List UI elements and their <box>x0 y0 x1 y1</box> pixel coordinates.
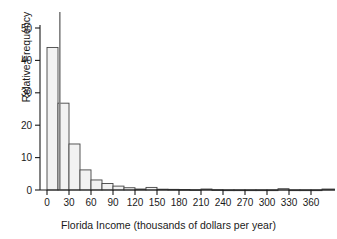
x-tick-label: 210 <box>193 197 210 208</box>
x-tick-label: 0 <box>44 197 50 208</box>
y-tick-label: 10 <box>21 152 33 163</box>
histogram-bar <box>80 170 91 190</box>
x-tick-label: 180 <box>171 197 188 208</box>
histogram-bar <box>47 47 58 190</box>
x-ticks-group: 0306090120150180210240270300330360 <box>44 190 320 208</box>
x-tick-label: 300 <box>259 197 276 208</box>
bars-group <box>47 47 334 190</box>
plot-area: 0102030405003060901201501802102402703003… <box>0 0 337 239</box>
x-tick-label: 360 <box>303 197 320 208</box>
x-tick-label: 30 <box>63 197 75 208</box>
histogram-bar <box>102 184 113 190</box>
histogram-bar <box>69 144 80 190</box>
x-tick-label: 330 <box>281 197 298 208</box>
x-tick-label: 150 <box>149 197 166 208</box>
histogram-bar <box>113 186 124 190</box>
histogram-figure: 0102030405003060901201501802102402703003… <box>0 0 337 239</box>
x-axis-label: Florida Income (thousands of dollars per… <box>0 219 337 231</box>
x-tick-label: 90 <box>107 197 119 208</box>
y-tick-label: 0 <box>26 185 32 196</box>
x-tick-label: 270 <box>237 197 254 208</box>
x-tick-label: 120 <box>127 197 144 208</box>
histogram-svg: 0102030405003060901201501802102402703003… <box>0 0 337 239</box>
histogram-bar <box>91 180 102 190</box>
x-tick-label: 240 <box>215 197 232 208</box>
x-tick-label: 60 <box>85 197 97 208</box>
y-axis-label: Relative Frequency <box>20 0 34 132</box>
